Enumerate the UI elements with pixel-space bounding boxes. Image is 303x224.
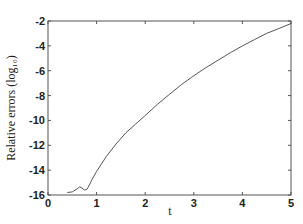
y-tick-label: -2	[35, 15, 45, 27]
x-axis-ticks	[48, 21, 291, 195]
y-axis-tick-labels: -2-4-6-8-10-12-14-16	[29, 15, 46, 201]
error-curve	[67, 24, 291, 193]
y-tick-label: -10	[29, 114, 45, 126]
x-tick-label: 4	[239, 197, 246, 209]
y-tick-label: -12	[29, 139, 45, 151]
x-tick-label: 2	[142, 197, 148, 209]
x-tick-label: 1	[94, 197, 100, 209]
plot-frame	[48, 21, 291, 195]
y-axis-label: Relative errors (log₁₀)	[4, 55, 18, 161]
plot-area	[48, 21, 291, 195]
y-axis-ticks	[48, 21, 291, 195]
x-axis-label: t	[168, 204, 172, 218]
y-tick-label: -4	[35, 40, 46, 52]
y-tick-label: -6	[35, 65, 45, 77]
y-tick-label: -8	[35, 90, 45, 102]
y-tick-label: -14	[29, 164, 46, 176]
x-tick-label: 5	[288, 197, 294, 209]
x-tick-label: 3	[191, 197, 197, 209]
line-chart: 012345 -2-4-6-8-10-12-14-16 t Relative e…	[0, 0, 303, 224]
x-tick-label: 0	[45, 197, 51, 209]
y-tick-label: -16	[29, 189, 45, 201]
